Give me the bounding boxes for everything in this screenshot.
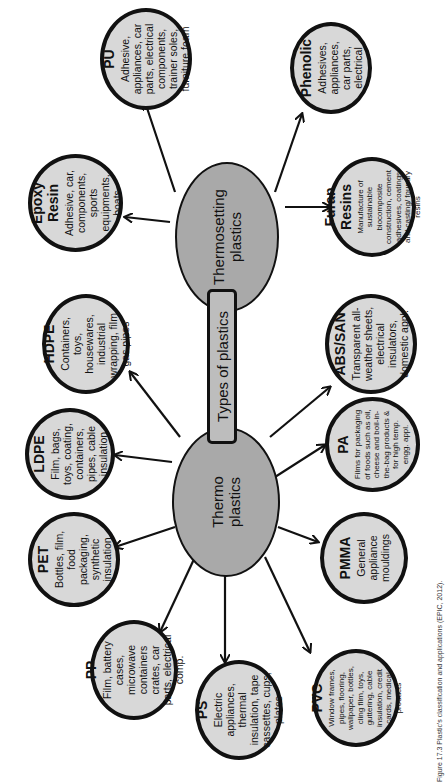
thermosetting-label-line1: Thermosetting (210, 189, 227, 285)
center-label: Types of plastics (214, 311, 231, 422)
node-title: HDPE (41, 325, 57, 364)
node-title: Furan Resins (322, 169, 354, 245)
node-desc: Bottles, film, food packaging, synthetic… (53, 524, 113, 595)
node-desc: Transparent all-weather sheets, electric… (350, 306, 410, 382)
node-ps: PS Electric appliances, thermal insulati… (195, 660, 283, 760)
node-desc: Manufacture of sustainable biocomposite … (356, 169, 423, 245)
node-abs-san: ABS/SAN Transparent all-weather sheets, … (325, 294, 417, 394)
node-hdpe: HDPE Containers, toys, housewares, indus… (42, 294, 130, 394)
node-pmma: PMMA General appliance mouldings (320, 512, 408, 604)
node-epoxy-resin: Epoxy Resin Adhesive, car, components, s… (28, 154, 123, 252)
node-title: PMMA (337, 537, 353, 580)
node-desc: Films for packaging of foods such as oil… (353, 409, 410, 480)
node-desc: Adhesive, car, components, sports equipm… (63, 166, 123, 240)
node-desc: Film, battery cases, microwave container… (101, 632, 185, 708)
node-desc: Electric appliances, thermal insulation,… (212, 672, 284, 748)
node-phenolic: Phenolic Adhesives, appliances, car part… (290, 22, 372, 114)
node-pu: PU Adhesive, appliances, car parts, elec… (100, 8, 192, 110)
node-title: PS (194, 701, 210, 720)
node-title: PVC (309, 684, 325, 713)
node-pet: PET Bottles, film, food packaging, synth… (28, 512, 120, 607)
node-desc: Containers, toys, housewares, industrial… (59, 306, 131, 382)
node-title: ABS/SAN (332, 313, 348, 376)
node-pa: PA Films for packaging of foods such as … (325, 397, 420, 492)
node-title: LDPE (31, 435, 47, 472)
types-of-plastics-box: Types of plastics (207, 289, 237, 444)
node-title: PP (83, 661, 99, 680)
node-desc: Adhesive, appliances, car parts, electri… (119, 20, 191, 98)
node-furan-resins: Furan Resins Manufacture of sustainable … (328, 157, 416, 257)
node-title: Epoxy Resin (29, 166, 61, 240)
node-desc: Window frames, pipes, flooring, wallpape… (327, 661, 403, 735)
thermoplastics-hub: Thermo plastics (172, 427, 280, 577)
thermosetting-label-line2: plastics (227, 189, 244, 285)
node-title: Phenolic (298, 39, 314, 97)
node-desc: Adhesives, appliances, car parts, electr… (316, 34, 364, 102)
node-desc: Film, bags, toys, coating, containers, p… (49, 420, 109, 488)
node-title: PA (335, 435, 351, 453)
node-desc: General appliance mouldings (355, 524, 391, 592)
node-ldpe: LDPE Film, bags, toys, coating, containe… (25, 408, 115, 500)
node-title: PET (35, 546, 51, 573)
thermo-label-line2: plastics (226, 476, 243, 528)
node-pvc: PVC Window frames, pipes, flooring, wall… (312, 649, 400, 747)
node-title: PU (101, 49, 117, 68)
diagram-canvas: Thermo plastics Thermosetting plastics T… (0, 0, 445, 782)
figure-caption: Figure 17.3 Plastic's classification and… (436, 581, 443, 782)
thermo-label-line1: Thermo (209, 476, 226, 528)
node-pp: PP Film, battery cases, microwave contai… (90, 620, 178, 720)
